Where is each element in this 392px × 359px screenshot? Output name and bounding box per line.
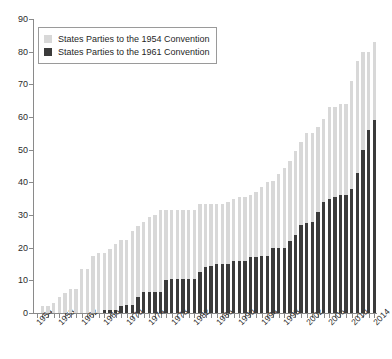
bar-segment-1961 — [181, 279, 184, 313]
bar-segment-1961 — [305, 223, 308, 313]
bar-segment-1961 — [114, 310, 117, 313]
y-axis-tick-mark — [29, 280, 33, 281]
bar-segment-1954 — [108, 249, 111, 313]
x-axis-tick-mark — [99, 314, 100, 318]
y-axis-tick-mark — [29, 182, 33, 183]
y-axis-tick-mark — [29, 52, 33, 53]
bar-segment-1961 — [328, 199, 331, 313]
bar-segment-1961 — [176, 279, 179, 313]
bar-segment-1961 — [193, 279, 196, 313]
x-axis-tick-mark — [121, 314, 122, 318]
bar-segment-1961 — [164, 280, 167, 313]
x-axis-tick-mark — [166, 314, 167, 318]
bar-segment-1961 — [266, 256, 269, 313]
bar-segment-1954 — [119, 240, 122, 314]
bar-column — [373, 19, 376, 313]
bar-column — [356, 19, 359, 313]
bar-segment-1961 — [277, 248, 280, 313]
bar-segment-1961 — [322, 202, 325, 313]
bar-segment-1954 — [97, 253, 100, 313]
legend-swatch-1954-icon — [44, 35, 52, 43]
bar-segment-1961 — [283, 248, 286, 313]
bar-segment-1961 — [136, 297, 139, 313]
y-axis-tick-mark — [29, 150, 33, 151]
chart-legend: States Parties to the 1954 Convention St… — [38, 27, 217, 64]
legend-label-1954: States Parties to the 1954 Convention — [58, 34, 210, 44]
legend-item-1961: States Parties to the 1961 Convention — [44, 46, 210, 58]
x-axis-tick-mark — [256, 314, 257, 318]
bar-column — [316, 19, 319, 313]
bar-column — [294, 19, 297, 313]
bar-segment-1954 — [103, 253, 106, 313]
bar-segment-1961 — [226, 264, 229, 313]
bar-column — [271, 19, 274, 313]
y-axis-tick-mark — [29, 313, 33, 314]
bar-column — [283, 19, 286, 313]
bar-segment-1961 — [333, 197, 336, 313]
x-axis-tick-mark — [234, 314, 235, 318]
bar-segment-1961 — [373, 120, 376, 313]
legend-item-1954: States Parties to the 1954 Convention — [44, 33, 210, 45]
bar-segment-1961 — [361, 150, 364, 313]
bar-segment-1954 — [125, 240, 128, 314]
y-axis-tick-mark — [29, 215, 33, 216]
bar-column — [221, 19, 224, 313]
bar-column — [367, 19, 370, 313]
bar-segment-1954 — [58, 297, 61, 313]
bar-segment-1954 — [86, 269, 89, 313]
bar-segment-1961 — [299, 225, 302, 313]
bar-segment-1961 — [350, 189, 353, 313]
x-axis-tick-mark — [301, 314, 302, 318]
bar-column — [333, 19, 336, 313]
bar-segment-1954 — [63, 293, 66, 313]
bar-column — [322, 19, 325, 313]
bar-column — [254, 19, 257, 313]
bar-segment-1961 — [215, 264, 218, 313]
bar-segment-1961 — [103, 310, 106, 313]
bar-segment-1961 — [356, 173, 359, 313]
bar-column — [249, 19, 252, 313]
bar-segment-1961 — [204, 267, 207, 313]
bar-segment-1961 — [249, 257, 252, 313]
y-axis-tick-mark — [29, 248, 33, 249]
bar-column — [350, 19, 353, 313]
bar-segment-1954 — [91, 256, 94, 313]
bar-segment-1961 — [221, 264, 224, 313]
bar-segment-1961 — [119, 306, 122, 313]
bar-segment-1961 — [153, 292, 156, 313]
bar-segment-1961 — [294, 235, 297, 313]
bar-segment-1961 — [187, 279, 190, 313]
bar-segment-1961 — [232, 261, 235, 313]
bar-segment-1954 — [46, 306, 49, 313]
x-axis-tick-mark — [144, 314, 145, 318]
x-axis-tick-mark — [279, 314, 280, 318]
bar-segment-1961 — [170, 279, 173, 313]
bar-segment-1954 — [52, 303, 55, 313]
bar-segment-1961 — [209, 266, 212, 313]
bar-segment-1961 — [339, 195, 342, 313]
bar-segment-1961 — [288, 241, 291, 313]
bar-segment-1961 — [311, 222, 314, 313]
bar-column — [328, 19, 331, 313]
bar-column — [238, 19, 241, 313]
bar-column — [277, 19, 280, 313]
bar-segment-1954 — [114, 244, 117, 313]
bar-segment-1961 — [108, 310, 111, 313]
bar-column — [344, 19, 347, 313]
bar-segment-1954 — [69, 289, 72, 314]
bar-segment-1961 — [243, 261, 246, 313]
bar-segment-1961 — [131, 305, 134, 313]
bar-segment-1961 — [238, 261, 241, 313]
x-axis-tick-mark — [369, 314, 370, 318]
y-axis-tick-mark — [29, 84, 33, 85]
x-axis-tick-mark — [211, 314, 212, 318]
bar-segment-1961 — [260, 256, 263, 313]
bar-column — [226, 19, 229, 313]
bar-column — [266, 19, 269, 313]
x-axis-tick-mark — [346, 314, 347, 318]
bar-column — [299, 19, 302, 313]
bar-segment-1954 — [74, 289, 77, 314]
bar-segment-1961 — [344, 195, 347, 313]
legend-swatch-1961-icon — [44, 48, 52, 56]
